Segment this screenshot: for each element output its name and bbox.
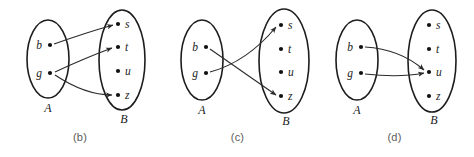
set-b-ellipse bbox=[408, 10, 456, 112]
node-label-b: b bbox=[192, 41, 198, 53]
node-dot-z bbox=[427, 94, 431, 98]
panel-caption-d: (d) bbox=[315, 131, 474, 143]
panel-caption-c: (c) bbox=[155, 131, 320, 143]
edge-b-to-z bbox=[210, 49, 276, 95]
node-dot-g bbox=[204, 71, 208, 75]
panel-c-diagram: b g s t u z A B bbox=[155, 0, 320, 125]
node-label-t: t bbox=[288, 43, 292, 55]
node-dot-u bbox=[116, 69, 120, 73]
node-dot-g bbox=[359, 71, 363, 75]
node-label-g: g bbox=[347, 67, 353, 80]
set-label-b: B bbox=[282, 114, 290, 128]
node-label-b: b bbox=[36, 39, 42, 51]
node-label-g: g bbox=[36, 67, 42, 80]
edge-g-to-s bbox=[210, 27, 276, 72]
node-dot-b bbox=[204, 45, 208, 49]
node-dot-s bbox=[116, 22, 120, 26]
node-label-g: g bbox=[192, 67, 198, 80]
set-label-a: A bbox=[197, 103, 206, 117]
node-label-z: z bbox=[124, 89, 130, 101]
node-dot-b bbox=[359, 45, 363, 49]
panel-d-diagram: b g s t u z A B bbox=[315, 0, 474, 125]
panel-caption-b: (b) bbox=[0, 131, 160, 143]
node-dot-s bbox=[279, 23, 283, 27]
set-label-b: B bbox=[430, 113, 438, 127]
node-label-t: t bbox=[436, 43, 440, 55]
node-dot-z bbox=[116, 93, 120, 97]
node-dot-z bbox=[279, 94, 283, 98]
panel-b: b g s t u z A B (b) bbox=[0, 0, 160, 157]
edge-g-to-u bbox=[365, 73, 424, 76]
set-a-ellipse bbox=[181, 20, 223, 100]
set-a-ellipse bbox=[336, 20, 378, 100]
edge-g-to-t bbox=[55, 48, 112, 72]
set-label-a: A bbox=[352, 103, 361, 117]
node-dot-t bbox=[427, 47, 431, 51]
node-label-s: s bbox=[436, 19, 441, 31]
node-label-s: s bbox=[125, 18, 130, 30]
node-label-u: u bbox=[436, 66, 442, 78]
edge-b-to-u bbox=[365, 47, 424, 70]
edge-b-to-s bbox=[54, 25, 113, 44]
panel-c: b g s t u z A B (c) bbox=[155, 0, 320, 157]
node-dot-t bbox=[116, 45, 120, 49]
set-label-a: A bbox=[43, 101, 52, 115]
set-label-b: B bbox=[120, 112, 128, 126]
node-dot-t bbox=[279, 47, 283, 51]
node-label-z: z bbox=[435, 90, 441, 102]
set-a-ellipse bbox=[27, 20, 69, 98]
node-dot-g bbox=[48, 71, 52, 75]
node-label-z: z bbox=[287, 90, 293, 102]
node-dot-u bbox=[427, 70, 431, 74]
node-dot-u bbox=[279, 70, 283, 74]
node-dot-s bbox=[427, 23, 431, 27]
relation-diagram-figure: b g s t u z A B (b) bbox=[0, 0, 474, 157]
node-label-u: u bbox=[125, 65, 131, 77]
panel-b-diagram: b g s t u z A B bbox=[0, 0, 160, 125]
node-label-t: t bbox=[125, 41, 129, 53]
node-label-s: s bbox=[288, 19, 293, 31]
node-dot-b bbox=[48, 43, 52, 47]
node-label-b: b bbox=[347, 41, 353, 53]
node-label-u: u bbox=[288, 66, 294, 78]
set-b-ellipse bbox=[259, 9, 309, 113]
panel-d: b g s t u z A B (d) bbox=[315, 0, 474, 157]
